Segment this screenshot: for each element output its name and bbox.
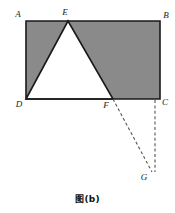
vertex-label-g: G	[141, 172, 148, 182]
vertex-label-a: A	[14, 9, 21, 19]
vertex-label-f: F	[102, 100, 109, 110]
vertex-label-e: E	[61, 7, 68, 17]
vertex-label-d: D	[15, 99, 23, 109]
figure-caption: 图(b)	[0, 192, 175, 205]
vertex-label-b: B	[163, 10, 169, 20]
vertex-label-c: C	[162, 97, 169, 107]
dashed-segment-fg	[113, 99, 152, 172]
geometry-diagram: A B C D E F G	[0, 0, 175, 213]
figure-page: A B C D E F G 图(b)	[0, 0, 175, 213]
